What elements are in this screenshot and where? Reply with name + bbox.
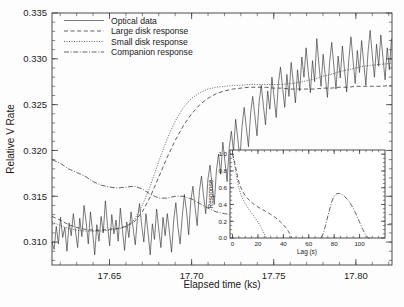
figure-container: 17.6517.7017.7517.80 0.3100.3150.3200.32… [0,0,404,307]
inset-y-tick-label: 0.4 [218,201,227,208]
chart-canvas: 17.6517.7017.7517.80 0.3100.3150.3200.32… [0,0,404,307]
inset-y-tick-label: 0.6 [218,184,227,191]
inset-x-tick-label: 60 [305,240,312,247]
x-tick-label: 17.80 [344,270,368,281]
x-tick-label: 17.75 [262,270,286,281]
y-axis-tick-labels: 0.3100.3150.3200.3250.3300.335 [23,7,47,247]
y-tick-label: 0.310 [23,236,47,247]
inset-y-tick-label: 0.8 [218,167,227,174]
legend-label-companion-response: Companion response [111,47,193,57]
y-axis-title: Relative V Rate [5,104,16,174]
legend-entry-3: Companion response [64,47,193,57]
y-tick-label: 0.335 [23,7,47,18]
inset-y-tick-label: 0.2 [218,218,227,225]
inset-x-tick-label: 40 [280,240,287,247]
x-tick-label: 17.65 [98,270,122,281]
legend-label-optical-data: Optical data [111,16,157,26]
y-tick-label: 0.320 [23,145,47,156]
inset-x-tick-label: 0 [231,240,235,247]
legend-label-large-disk-response: Large disk response [111,26,189,36]
inset-chart: 020406080100 0.00.20.40.60.81.0 Lag (s) … [207,150,385,256]
legend-entry-0: Optical data [64,16,157,26]
y-tick-label: 0.325 [23,99,47,110]
inset-y-axis-title: Response [207,179,215,208]
inset-x-tick-label: 100 [354,240,365,247]
x-axis-title: Elapsed time (ks) [183,279,260,290]
legend: Optical data Large disk response Small d… [64,16,193,58]
legend-label-small-disk-response: Small disk response [111,37,188,47]
inset-x-tick-label: 80 [331,240,338,247]
y-tick-label: 0.330 [23,53,47,64]
inset-y-tick-label: 1.0 [218,150,227,157]
inset-x-axis-title: Lag (s) [297,248,317,256]
inset-y-tick-label: 0.0 [218,234,227,241]
inset-x-tick-label: 20 [255,240,262,247]
legend-entry-1: Large disk response [64,26,189,36]
legend-entry-2: Small disk response [64,37,188,47]
inset-x-axis-tick-labels: 020406080100 [231,240,365,247]
y-tick-label: 0.315 [23,191,47,202]
